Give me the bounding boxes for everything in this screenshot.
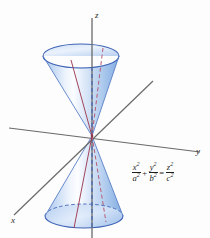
equation-x-num-exp: 2 [137,161,140,167]
equation-z-den-exp: 2 [170,172,173,178]
cone-equation: x2 a2 + y2 b2 = z2 c2 [131,163,175,182]
z-axis-label: z [95,11,99,20]
y-axis-label: y [196,147,200,156]
cone-svg [0,0,210,238]
x-axis-label: x [11,216,15,225]
equation-plus: + [141,168,148,178]
equation-term-x: x2 a2 [132,163,141,182]
equation-term-z: z2 c2 [166,163,175,182]
y-axis [9,128,200,152]
cone-figure: z y x x2 a2 + y2 b2 = z2 c2 [0,0,210,238]
equation-y-num-exp: 2 [154,161,157,167]
equation-z-num-exp: 2 [170,161,173,167]
equation-y-den-exp: 2 [154,172,157,178]
apex-point [91,135,94,138]
equation-x-den-exp: 2 [137,172,140,178]
equation-equals: = [158,168,165,178]
equation-term-y: y2 b2 [149,163,158,182]
